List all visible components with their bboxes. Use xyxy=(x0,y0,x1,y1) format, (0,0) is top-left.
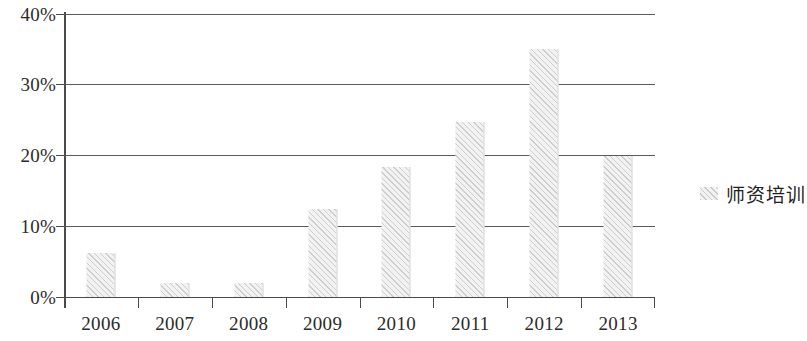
bar-slot xyxy=(433,14,507,297)
bar-2009 xyxy=(308,209,337,297)
x-axis-label-2012: 2012 xyxy=(525,313,564,336)
bar-slot xyxy=(64,14,138,297)
x-axis-tick-mark xyxy=(433,297,434,308)
bar-2013 xyxy=(604,156,633,298)
bar-slot xyxy=(138,14,212,297)
x-axis-label-2009: 2009 xyxy=(303,313,342,336)
x-axis-label-2013: 2013 xyxy=(598,313,637,336)
bar-2006 xyxy=(86,253,115,297)
y-axis-tick-label: 20% xyxy=(4,146,56,165)
bar-2007 xyxy=(160,283,189,297)
x-axis-ticks xyxy=(64,297,655,308)
x-axis-label-2008: 2008 xyxy=(229,313,268,336)
x-axis-tick-mark xyxy=(507,297,508,308)
bar-chart: 40% 30% 20% 10% 0% xyxy=(0,0,807,341)
bar-slot xyxy=(507,14,581,297)
y-axis-tick-label: 10% xyxy=(4,217,56,236)
x-axis-tick-mark xyxy=(138,297,139,308)
x-axis-tick-mark xyxy=(212,297,213,308)
bars-layer xyxy=(64,14,655,297)
bar-slot xyxy=(581,14,655,297)
legend-label: 师资培训 xyxy=(726,180,806,207)
x-axis-label-2010: 2010 xyxy=(377,313,416,336)
y-axis-labels: 40% 30% 20% 10% 0% xyxy=(0,0,56,341)
bar-slot xyxy=(360,14,434,297)
y-axis-tick-label: 30% xyxy=(4,75,56,94)
x-axis-label-2006: 2006 xyxy=(81,313,120,336)
bar-slot xyxy=(286,14,360,297)
bar-2011 xyxy=(456,122,485,297)
legend: 师资培训 xyxy=(700,180,806,207)
x-axis-label-2007: 2007 xyxy=(155,313,194,336)
y-axis-tick-label: 40% xyxy=(4,5,56,24)
bar-slot xyxy=(212,14,286,297)
x-axis-tick-mark xyxy=(64,297,65,308)
x-axis-tick-mark xyxy=(654,297,655,308)
y-axis-tick-label: 0% xyxy=(4,288,56,307)
x-axis-labels: 2006 2007 2008 2009 2010 2011 2012 2013 xyxy=(64,313,655,341)
x-axis-tick-mark xyxy=(360,297,361,308)
bar-2008 xyxy=(234,283,263,297)
x-axis-tick-mark xyxy=(286,297,287,308)
legend-swatch-icon xyxy=(700,187,718,200)
bar-2012 xyxy=(530,49,559,297)
x-axis-label-2011: 2011 xyxy=(451,313,490,336)
x-axis-tick-mark xyxy=(581,297,582,308)
bar-2010 xyxy=(382,167,411,297)
